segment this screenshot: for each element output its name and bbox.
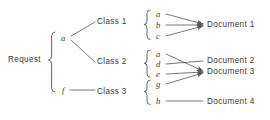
document-label-4: Document 4 [207,98,255,106]
edge-a1-doc1 [166,14,203,24]
term-b: b [156,21,160,30]
edge-g-doc3 [166,73,203,84]
edge-a-class2 [71,40,95,62]
term-c: c [156,32,160,41]
edge-a-class1 [71,22,95,36]
class-label-1: Class 1 [97,18,127,26]
term-d: d [156,60,160,69]
node-f: f [62,86,64,95]
edge-e-doc3 [166,72,203,74]
document-label-2: Document 2 [207,57,255,65]
node-a: a [61,34,65,43]
class2-brace [144,50,150,77]
edge-d-doc2 [166,61,203,64]
term-g: g [156,80,160,89]
class-label-2: Class 2 [97,58,127,66]
class-label-3: Class 3 [97,88,127,96]
edge-c-doc1 [166,26,203,36]
class1-brace [144,10,150,40]
document-label-3: Document 3 [207,68,255,76]
term-e: e [156,70,160,79]
root-brace [49,32,56,92]
term-h: h [156,97,160,106]
diagram-canvas: Request a f Class 1 Class 2 Class 3 a b … [0,0,270,120]
term-a2: a [156,50,160,59]
document-label-1: Document 1 [207,21,255,29]
class3-brace [144,80,150,105]
root-label: Request [8,56,41,64]
term-a1: a [156,10,160,19]
